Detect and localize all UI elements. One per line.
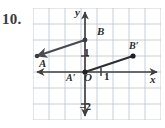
x-axis-tick-label-1: 1 <box>104 71 110 82</box>
y-axis-tick-label-1: 1 <box>84 47 90 58</box>
point-label-B-prime: B′ <box>129 41 138 51</box>
y-axis-label: y <box>75 7 80 18</box>
x-axis-label: x <box>150 74 156 85</box>
y-axis-tick-label-negative: –2 <box>80 101 91 112</box>
point-B-prime <box>130 53 135 58</box>
point-label-A-prime: A′ <box>66 73 75 83</box>
origin-label: O <box>84 72 92 83</box>
problem-number: 10. <box>2 11 21 28</box>
figure-problem-container: 10. <box>0 0 165 128</box>
point-label-A: A <box>39 58 46 69</box>
point-B <box>83 38 88 43</box>
segment-AB <box>35 38 88 59</box>
point-label-B: B <box>97 26 104 37</box>
